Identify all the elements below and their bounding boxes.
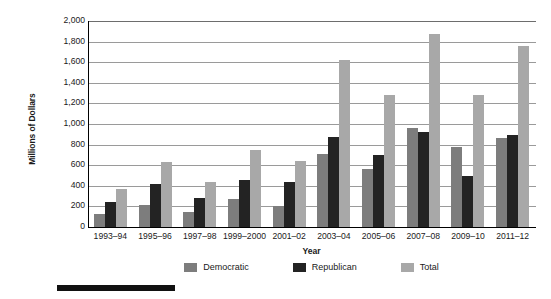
bar-group xyxy=(267,21,312,227)
bar-republican-1999–2000 xyxy=(239,180,250,227)
x-axis-tick-label: 1995–96 xyxy=(133,231,178,241)
bar-democratic-1997–98 xyxy=(183,212,194,227)
bar-democratic-1995–96 xyxy=(139,205,150,227)
x-axis-tick-label: 2011–12 xyxy=(490,231,535,241)
legend-swatch-icon xyxy=(401,263,414,272)
bar-total-2011–12 xyxy=(518,46,529,227)
y-axis-tick-label: 1,800 xyxy=(41,37,85,46)
bar-republican-2007–08 xyxy=(418,132,429,227)
y-axis-title: Millions of Dollars xyxy=(27,34,37,224)
bar-total-2007–08 xyxy=(429,34,440,227)
chart-legend: DemocraticRepublicanTotal xyxy=(88,262,535,272)
x-axis-tick-label: 2009–10 xyxy=(446,231,491,241)
y-axis-tick-label: 1,200 xyxy=(41,98,85,107)
bar-group xyxy=(446,21,491,227)
legend-item-democratic: Democratic xyxy=(184,262,249,272)
legend-label: Republican xyxy=(312,262,357,272)
y-axis-tick-label: 2,000 xyxy=(41,16,85,25)
bar-democratic-1993–94 xyxy=(94,214,105,227)
bar-group xyxy=(401,21,446,227)
legend-label: Total xyxy=(420,262,439,272)
y-axis-tick-label: 1,400 xyxy=(41,78,85,87)
bar-total-1999–2000 xyxy=(250,150,261,227)
bar-groups xyxy=(88,21,535,227)
y-axis-tick-label: 600 xyxy=(41,160,85,169)
bar-republican-1995–96 xyxy=(150,184,161,227)
bar-democratic-2005–06 xyxy=(362,169,373,227)
bar-republican-2003–04 xyxy=(328,137,339,227)
bar-republican-2009–10 xyxy=(462,176,473,228)
bar-republican-1997–98 xyxy=(194,198,205,227)
x-axis-tick-label: 2007–08 xyxy=(401,231,446,241)
bar-democratic-2007–08 xyxy=(407,128,418,227)
bar-democratic-1999–2000 xyxy=(228,199,239,227)
y-axis-tick-label: 1,600 xyxy=(41,57,85,66)
bar-republican-1993–94 xyxy=(105,202,116,227)
x-axis-tick-labels: 1993–941995–961997–981999–20002001–02200… xyxy=(88,231,535,241)
bar-chart-figure: Millions of Dollars 2,0001,8001,6001,400… xyxy=(0,0,551,299)
legend-swatch-icon xyxy=(184,263,197,272)
bar-group xyxy=(490,21,535,227)
x-axis-tick-label: 2003–04 xyxy=(312,231,357,241)
bar-democratic-2009–10 xyxy=(451,147,462,227)
footer-rule xyxy=(57,285,175,291)
y-axis-tick-label: 400 xyxy=(41,181,85,190)
legend-swatch-icon xyxy=(293,263,306,272)
bar-democratic-2011–12 xyxy=(496,138,507,227)
bar-group xyxy=(177,21,222,227)
bar-group xyxy=(133,21,178,227)
x-axis-tick-label: 2005–06 xyxy=(356,231,401,241)
bar-total-2009–10 xyxy=(473,95,484,227)
bar-group xyxy=(88,21,133,227)
x-axis-tick-label: 2001–02 xyxy=(267,231,312,241)
legend-item-total: Total xyxy=(401,262,439,272)
y-axis-tick-label: 800 xyxy=(41,140,85,149)
bar-group xyxy=(356,21,401,227)
y-axis-tick-label: 0 xyxy=(41,222,85,231)
legend-label: Democratic xyxy=(203,262,249,272)
x-axis-tick-label: 1993–94 xyxy=(88,231,133,241)
y-axis-tick-label: 200 xyxy=(41,201,85,210)
bar-republican-2011–12 xyxy=(507,135,518,227)
bar-republican-2005–06 xyxy=(373,155,384,227)
bar-total-2005–06 xyxy=(384,95,395,227)
x-axis-tick-label: 1999–2000 xyxy=(222,231,267,241)
bar-total-1993–94 xyxy=(116,189,127,227)
bar-democratic-2003–04 xyxy=(317,154,328,227)
bar-group xyxy=(312,21,357,227)
bar-total-1995–96 xyxy=(161,162,172,227)
x-axis-title: Year xyxy=(88,246,535,256)
bar-total-2001–02 xyxy=(295,161,306,227)
bar-democratic-2001–02 xyxy=(273,206,284,227)
legend-item-republican: Republican xyxy=(293,262,357,272)
y-axis-tick-label: 1,000 xyxy=(41,119,85,128)
bar-republican-2001–02 xyxy=(284,182,295,227)
bar-total-2003–04 xyxy=(339,60,350,227)
bar-total-1997–98 xyxy=(205,182,216,227)
bar-group xyxy=(222,21,267,227)
x-axis-tick-label: 1997–98 xyxy=(177,231,222,241)
